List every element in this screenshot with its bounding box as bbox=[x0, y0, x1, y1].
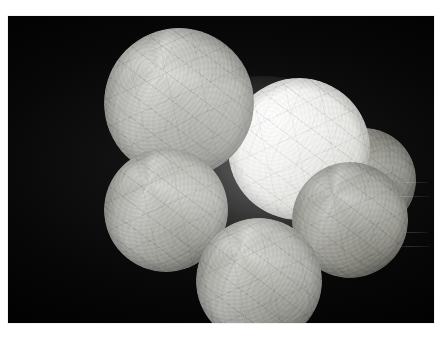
sensor-streak bbox=[400, 232, 428, 233]
page-canvas bbox=[0, 0, 448, 343]
sensor-streak bbox=[396, 246, 430, 247]
sensor-streak bbox=[392, 196, 430, 197]
sensor-streak bbox=[398, 182, 428, 183]
sensor-streaks bbox=[8, 16, 434, 323]
photograph bbox=[8, 16, 434, 323]
